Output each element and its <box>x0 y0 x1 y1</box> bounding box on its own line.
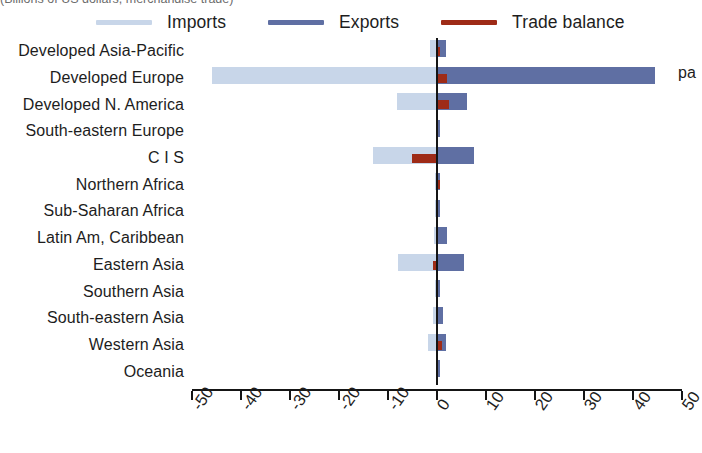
row-bars <box>192 91 682 118</box>
legend-swatch-exports <box>268 20 324 25</box>
chart-row: Oceania <box>0 358 702 385</box>
category-label: Oceania <box>124 363 184 381</box>
bar-exports <box>437 147 474 164</box>
x-axis-tick-label: 0 <box>433 395 454 413</box>
category-label: Sub-Saharan Africa <box>43 202 184 220</box>
chart-row: C I S <box>0 145 702 172</box>
chart-row: Southern Asia <box>0 278 702 305</box>
chart-row: Developed N. America <box>0 91 702 118</box>
category-label: Developed Europe <box>50 69 184 87</box>
row-bars <box>192 225 682 252</box>
row-bars <box>192 252 682 279</box>
category-label: Developed Asia-Pacific <box>18 42 184 60</box>
chart-row: Sub-Saharan Africa <box>0 198 702 225</box>
legend-swatch-trade-balance <box>441 20 497 25</box>
legend-item-imports: Imports <box>96 12 226 33</box>
category-label: Northern Africa <box>76 176 184 194</box>
chart-row: Eastern Asia <box>0 252 702 279</box>
zero-line-segment <box>436 91 438 118</box>
chart-row: Northern Africa <box>0 171 702 198</box>
plot-area: Developed Asia-PacificDeveloped EuropeDe… <box>0 38 702 390</box>
zero-line-segment <box>436 145 438 172</box>
bar-exports <box>437 227 447 244</box>
legend-label-exports: Exports <box>339 12 399 33</box>
x-axis: -40-30-20-1001020304050-50 <box>192 389 682 390</box>
zero-line-segment <box>436 198 438 225</box>
chart-row: South-eastern Asia <box>0 305 702 332</box>
zero-line-segment <box>436 118 438 145</box>
zero-line-segment <box>436 38 438 65</box>
chart-legend: Imports Exports Trade balance <box>96 9 625 35</box>
zero-line-segment <box>436 278 438 305</box>
zero-line-segment <box>436 305 438 332</box>
row-bars <box>192 65 682 92</box>
legend-item-exports: Exports <box>268 12 399 33</box>
legend-swatch-imports <box>96 20 152 25</box>
category-label: Southern Asia <box>83 283 184 301</box>
legend-label-imports: Imports <box>167 12 226 33</box>
bar-trade-balance <box>412 154 437 163</box>
chart-row: Western Asia <box>0 332 702 359</box>
bar-exports <box>437 67 655 84</box>
bar-imports <box>398 254 437 271</box>
row-bars <box>192 171 682 198</box>
category-label: Latin Am, Caribbean <box>37 229 184 247</box>
chart-row: Developed Asia-Pacific <box>0 38 702 65</box>
row-bars <box>192 38 682 65</box>
row-bars <box>192 118 682 145</box>
category-label: Eastern Asia <box>93 256 184 274</box>
zero-line-segment <box>436 252 438 279</box>
row-bars <box>192 145 682 172</box>
legend-label-trade-balance: Trade balance <box>512 12 625 33</box>
bar-trade-balance <box>437 74 447 83</box>
row-bars <box>192 198 682 225</box>
chart-row: Developed Europe <box>0 65 702 92</box>
bar-exports <box>437 254 464 271</box>
category-label: C I S <box>148 149 184 167</box>
zero-line-segment <box>436 358 438 385</box>
category-label: South-eastern Europe <box>25 122 184 140</box>
right-margin-text: pa <box>678 64 702 82</box>
category-label: Western Asia <box>89 336 184 354</box>
row-bars <box>192 305 682 332</box>
zero-line-segment <box>436 171 438 198</box>
row-bars <box>192 332 682 359</box>
bar-imports <box>397 93 437 110</box>
figure-top-caption: (Billions of US dollars, merchandise tra… <box>0 0 702 6</box>
zero-line-segment <box>436 332 438 359</box>
category-label: Developed N. America <box>23 96 184 114</box>
row-bars <box>192 358 682 385</box>
category-label: South-eastern Asia <box>47 309 184 327</box>
row-bars <box>192 278 682 305</box>
trade-balance-bar-chart: (Billions of US dollars, merchandise tra… <box>0 0 702 453</box>
chart-row: South-eastern Europe <box>0 118 702 145</box>
bar-imports <box>212 67 437 84</box>
bar-rows: Developed Asia-PacificDeveloped EuropeDe… <box>0 38 702 386</box>
zero-line-segment <box>436 225 438 252</box>
bar-trade-balance <box>437 100 449 109</box>
zero-line-segment <box>436 65 438 92</box>
chart-row: Latin Am, Caribbean <box>0 225 702 252</box>
legend-item-trade-balance: Trade balance <box>441 12 625 33</box>
